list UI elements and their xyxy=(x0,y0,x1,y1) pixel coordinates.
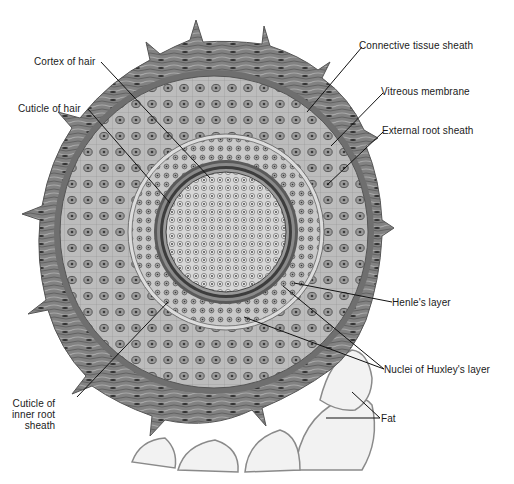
label-vitreous-membrane: Vitreous membrane xyxy=(381,86,470,97)
follicle-illustration xyxy=(0,0,514,484)
label-line: sheath xyxy=(12,420,55,431)
label-line: Cuticle of xyxy=(12,398,55,409)
label-cuticle-of-inner-root-sheath: Cuticle ofinner rootsheath xyxy=(12,398,55,431)
label-cuticle-of-hair: Cuticle of hair xyxy=(18,103,81,114)
label-line: inner root xyxy=(12,409,55,420)
cortex-of-hair xyxy=(166,172,286,292)
hair-follicle-figure: Cortex of hairCuticle of hairConnective … xyxy=(0,0,514,484)
label-henles-layer: Henle's layer xyxy=(392,297,451,308)
label-cortex-of-hair: Cortex of hair xyxy=(34,56,95,67)
label-fat: Fat xyxy=(381,413,396,424)
label-connective-tissue-sheath: Connective tissue sheath xyxy=(359,40,473,51)
label-external-root-sheath: External root sheath xyxy=(382,125,474,136)
label-nuclei-of-huxleys-layer: Nuclei of Huxley's layer xyxy=(384,364,490,375)
